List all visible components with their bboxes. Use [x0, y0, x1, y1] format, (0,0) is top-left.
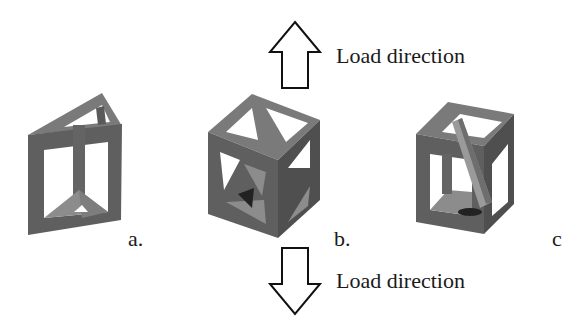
panel-b-label: b. — [334, 226, 351, 252]
load-direction-bottom-label: Load direction — [336, 268, 465, 294]
braced-cube-cell-icon — [204, 90, 334, 240]
panel-a-label: a. — [128, 226, 143, 252]
panel-c-label: c — [552, 226, 562, 252]
load-direction-up-arrow-icon — [268, 20, 324, 92]
load-direction-down-arrow-icon — [268, 246, 324, 318]
triangular-prism-cell-icon — [24, 90, 134, 250]
load-direction-top-label: Load direction — [336, 43, 465, 69]
diagonal-strut-cube-cell-icon — [412, 92, 552, 242]
